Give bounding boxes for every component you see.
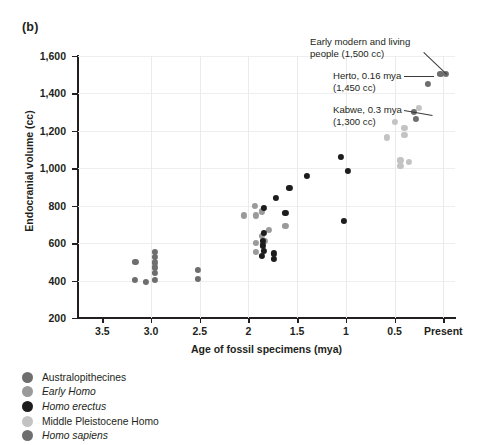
legend-item[interactable]: Homo sapiens xyxy=(22,428,159,443)
x-tick-mark xyxy=(297,318,298,323)
figure-panel-b: (b) 2004006008001,0001,2001,4001,600 3.5… xyxy=(0,0,492,445)
annotation-early-modern-living-people: Early modern and living people (1,500 cc… xyxy=(310,36,410,61)
vertical-gridline xyxy=(346,56,347,318)
y-tick-label: 1,600 xyxy=(22,50,66,62)
data-point xyxy=(152,277,158,283)
legend-label: Early Homo xyxy=(42,386,96,397)
legend-swatch-icon xyxy=(22,386,33,397)
data-point xyxy=(261,230,267,236)
x-tick-label: 3.0 xyxy=(144,325,159,337)
data-point xyxy=(273,195,279,201)
legend-label: Homo erectus xyxy=(42,401,106,412)
y-tick-mark xyxy=(72,168,77,169)
y-tick-mark xyxy=(72,56,77,57)
x-tick-mark xyxy=(248,318,249,323)
vertical-gridline xyxy=(395,56,396,318)
x-tick-label: Present xyxy=(424,325,463,337)
data-point xyxy=(425,81,431,87)
legend-swatch-icon xyxy=(22,372,33,383)
data-point xyxy=(132,259,138,265)
leader-herto xyxy=(404,76,434,77)
y-tick-label: 400 xyxy=(22,275,66,287)
x-tick-mark xyxy=(395,318,396,323)
y-tick-mark xyxy=(72,131,77,132)
data-point xyxy=(384,134,390,140)
legend-label: Australopithecines xyxy=(42,372,126,383)
plot-area xyxy=(78,56,455,318)
legend-item[interactable]: Middle Pleistocene Homo xyxy=(22,414,159,429)
y-tick-mark xyxy=(72,243,77,244)
data-point xyxy=(282,210,288,216)
x-tick-mark xyxy=(102,318,103,323)
x-tick-label: 2 xyxy=(246,325,252,337)
legend-item[interactable]: Homo erectus xyxy=(22,399,159,414)
x-tick-mark xyxy=(151,318,152,323)
y-axis-title: Endocranial volume (cc) xyxy=(23,76,35,266)
data-point xyxy=(253,240,259,246)
data-point xyxy=(338,154,344,160)
vertical-gridline xyxy=(443,56,444,318)
data-point xyxy=(271,256,277,262)
data-point xyxy=(241,212,247,218)
data-point xyxy=(259,253,265,259)
data-point xyxy=(253,212,259,218)
annotation-kabwe: Kabwe, 0.3 mya (1,300 cc) xyxy=(333,104,402,129)
legend-item[interactable]: Australopithecines xyxy=(22,370,159,385)
vertical-gridline xyxy=(297,56,298,318)
data-point xyxy=(143,278,149,284)
x-tick-label: 0.5 xyxy=(387,325,402,337)
data-point xyxy=(345,168,351,174)
data-point xyxy=(406,159,412,165)
x-tick-mark xyxy=(346,318,347,323)
y-tick-label: 200 xyxy=(22,312,66,324)
data-point xyxy=(304,173,310,179)
legend: AustralopithecinesEarly HomoHomo erectus… xyxy=(22,370,159,443)
data-point xyxy=(261,204,267,210)
x-tick-label: 2.5 xyxy=(192,325,207,337)
legend-label: Middle Pleistocene Homo xyxy=(42,416,159,427)
y-tick-mark xyxy=(72,318,77,319)
data-point xyxy=(413,116,419,122)
x-tick-label: 1 xyxy=(343,325,349,337)
data-point xyxy=(401,132,407,138)
x-tick-label: 3.5 xyxy=(95,325,110,337)
y-tick-mark xyxy=(72,93,77,94)
panel-label: (b) xyxy=(22,20,39,34)
legend-swatch-icon xyxy=(22,430,33,441)
legend-item[interactable]: Early Homo xyxy=(22,385,159,400)
data-point xyxy=(252,203,258,209)
legend-swatch-icon xyxy=(22,416,33,427)
x-tick-label: 1.5 xyxy=(290,325,305,337)
data-point xyxy=(282,223,288,229)
y-tick-mark xyxy=(72,206,77,207)
data-point xyxy=(131,277,137,283)
x-tick-mark xyxy=(443,318,444,323)
data-point xyxy=(152,270,158,276)
legend-label: Homo sapiens xyxy=(42,430,108,441)
horizontal-gridline xyxy=(78,131,455,132)
data-point xyxy=(286,185,292,191)
vertical-gridline xyxy=(248,56,249,318)
x-axis-title: Age of fossil specimens (mya) xyxy=(78,343,455,355)
legend-swatch-icon xyxy=(22,401,33,412)
annotation-herto: Herto, 0.16 mya (1,450 cc) xyxy=(333,70,401,95)
x-tick-mark xyxy=(200,318,201,323)
y-tick-mark xyxy=(72,281,77,282)
